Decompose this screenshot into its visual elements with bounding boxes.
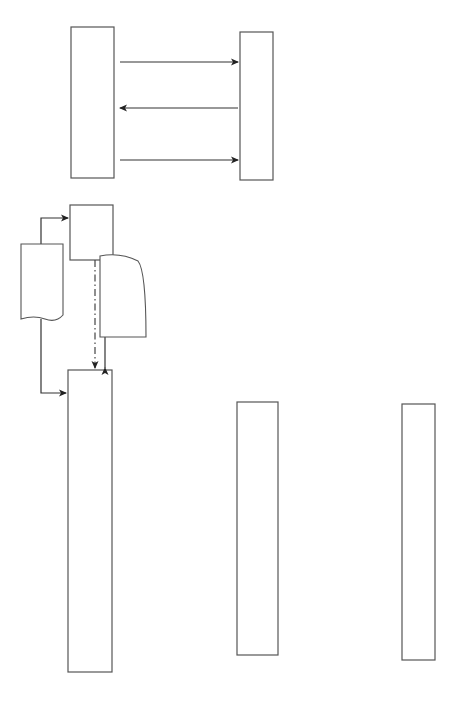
ifis-box	[70, 205, 113, 260]
construction-agent-box	[68, 370, 112, 672]
epc-contractor-box	[402, 404, 435, 660]
asset-agency-to-agent-arrow	[41, 319, 66, 393]
project-company-box	[237, 402, 278, 655]
asset-agency-to-ifis-arrow	[41, 218, 68, 244]
operations-project-company-box	[240, 32, 273, 180]
asset-participation-document	[100, 255, 146, 337]
diagram-canvas	[0, 0, 455, 713]
operations-agent-box	[71, 27, 114, 178]
asset-agency-document	[21, 244, 63, 320]
